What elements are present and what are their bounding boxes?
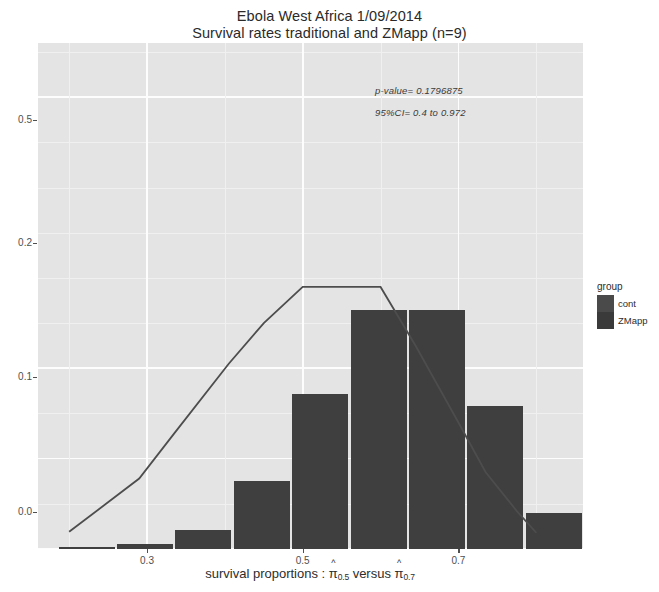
- x-axis-title-prefix: survival proportions :: [205, 566, 329, 581]
- x-axis-tick-label: 0.3: [127, 555, 167, 566]
- legend: group contZMapp: [597, 281, 659, 329]
- histogram-bar: [526, 513, 582, 549]
- legend-color-swatch: [597, 295, 614, 312]
- x-axis-title-middle: versus: [349, 566, 395, 581]
- x-axis-tick-label: 0.7: [438, 555, 478, 566]
- chart-container: Ebola West Africa 1/09/2014 Survival rat…: [0, 0, 659, 592]
- chart-title-line-2: Survival rates traditional and ZMapp (n=…: [0, 25, 659, 42]
- y-axis-tick-mark: [33, 512, 37, 513]
- histogram-bar: [117, 544, 173, 549]
- legend-title: group: [597, 281, 659, 292]
- gridline-minor-horizontal: [38, 233, 583, 234]
- y-axis-tick-label: 0.1: [2, 371, 32, 382]
- hat-accent-2: ^: [397, 559, 401, 568]
- gridline-major-horizontal: [38, 367, 583, 369]
- histogram-bar: [234, 481, 290, 549]
- y-axis-tick-label: 0.5: [2, 114, 32, 125]
- gridline-minor-horizontal: [38, 278, 583, 279]
- pi-symbol-2: π: [395, 566, 404, 581]
- pi-symbol-1: π: [329, 566, 338, 581]
- histogram-bar: [351, 310, 407, 549]
- gridline-major-vertical: [146, 43, 148, 549]
- gridline-minor-horizontal: [38, 323, 583, 324]
- legend-item[interactable]: cont: [597, 295, 659, 312]
- gridline-minor-vertical: [225, 43, 226, 549]
- gridline-minor-horizontal: [38, 52, 583, 53]
- histogram-bar: [467, 406, 523, 549]
- gridline-minor-horizontal: [38, 188, 583, 189]
- x-axis-subscript-1: 0.5: [338, 572, 349, 582]
- x-axis-tick-mark: [303, 549, 304, 553]
- x-axis-subscript-2: 0.7: [404, 572, 415, 582]
- histogram-bar: [175, 530, 231, 549]
- histogram-bar: [409, 310, 465, 549]
- x-axis-tick-mark: [147, 549, 148, 553]
- gridline-major-horizontal: [38, 96, 583, 98]
- legend-items: contZMapp: [597, 295, 659, 329]
- pi-hat-symbol-1: ^π: [329, 566, 338, 581]
- y-axis-tick-mark: [33, 377, 37, 378]
- gridline-minor-vertical: [536, 43, 537, 549]
- y-axis-tick-mark: [33, 120, 37, 121]
- y-axis-tick-mark: [33, 243, 37, 244]
- legend-item-label: cont: [618, 298, 636, 309]
- gridline-minor-vertical: [69, 43, 70, 549]
- x-axis-title: survival proportions : ^π0.5 versus ^π0.…: [0, 566, 620, 582]
- histogram-bar: [292, 394, 348, 549]
- x-axis-tick-label: 0.5: [283, 555, 323, 566]
- confidence-interval-annotation: 95%CI= 0.4 to 0.972: [375, 107, 466, 118]
- pi-hat-symbol-2: ^π: [395, 566, 404, 581]
- plot-panel: [38, 43, 583, 549]
- hat-accent-1: ^: [331, 559, 335, 568]
- legend-color-swatch: [597, 312, 614, 329]
- gridline-minor-horizontal: [38, 142, 583, 143]
- p-value-annotation: p-value= 0.1796875: [375, 85, 463, 96]
- x-axis-tick-mark: [458, 549, 459, 553]
- chart-title-line-1: Ebola West Africa 1/09/2014: [0, 8, 659, 25]
- y-axis-tick-label: 0.2: [2, 237, 32, 248]
- plot-area: [38, 43, 583, 549]
- legend-item-label: ZMapp: [618, 315, 648, 326]
- legend-item[interactable]: ZMapp: [597, 312, 659, 329]
- y-axis-tick-label: 0.0: [2, 506, 32, 517]
- chart-title: Ebola West Africa 1/09/2014 Survival rat…: [0, 8, 659, 42]
- histogram-bar: [59, 547, 115, 549]
